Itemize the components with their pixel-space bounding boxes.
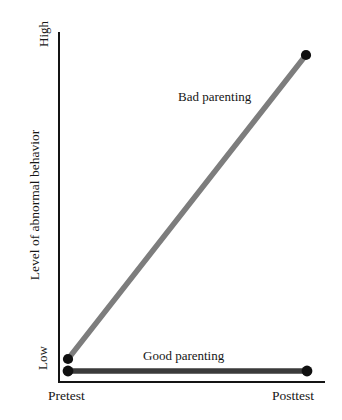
x-axis-tick-posttest: Posttest bbox=[272, 388, 314, 404]
series-annotation-bad-parenting: Bad parenting bbox=[178, 89, 251, 105]
y-axis-line bbox=[58, 32, 60, 383]
data-point-bad-pretest bbox=[63, 354, 73, 364]
y-axis-tick-low: Low bbox=[35, 336, 51, 380]
data-point-good-posttest bbox=[302, 366, 313, 377]
series-annotation-good-parenting: Good parenting bbox=[143, 348, 224, 364]
chart-figure: High Low Level of abnormal behavior Pret… bbox=[0, 0, 342, 420]
x-axis-line bbox=[58, 381, 325, 383]
x-axis-tick-pretest: Pretest bbox=[48, 388, 85, 404]
data-point-good-pretest bbox=[63, 366, 74, 377]
y-axis-tick-high: High bbox=[36, 12, 52, 56]
data-point-bad-posttest bbox=[301, 50, 311, 60]
y-axis-title: Level of abnormal behavior bbox=[27, 100, 43, 310]
